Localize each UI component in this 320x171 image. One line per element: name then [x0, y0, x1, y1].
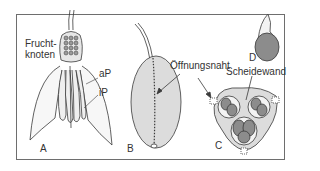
panel-label-a: A: [40, 143, 47, 154]
label-ap: aP: [99, 68, 111, 79]
panel-label-b: B: [127, 143, 134, 154]
label-oeffnungsnaht: Öffnungsnaht: [170, 60, 230, 71]
panel-label-d: D: [249, 52, 256, 63]
seed-illustration-d: [255, 14, 279, 61]
capsule-illustration-b: [131, 23, 181, 148]
label-ip: iP: [99, 87, 108, 98]
label-fruchtknoten-line1: Frucht-: [25, 38, 57, 49]
label-fruchtknoten-line2: knoten: [25, 49, 55, 60]
panel-label-c: C: [215, 140, 222, 151]
label-scheidewand: Scheidewand: [226, 66, 286, 77]
